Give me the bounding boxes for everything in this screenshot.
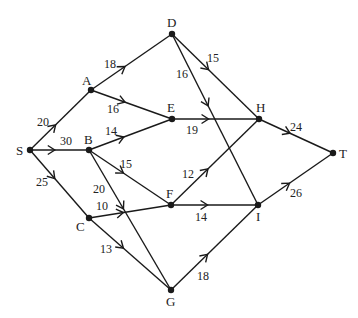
node-label-g: G — [166, 294, 175, 309]
edge-weight-label: 30 — [60, 134, 72, 148]
node-label-t: T — [339, 146, 347, 161]
node-label-c: C — [76, 219, 85, 234]
node-label-d: D — [167, 15, 176, 30]
edge-weight-label: 14 — [195, 210, 207, 224]
edge-weight-label: 26 — [290, 186, 302, 200]
edge-weight-label: 13 — [100, 242, 112, 256]
edge-weight-label: 24 — [290, 120, 302, 134]
edge-weight-label: 20 — [93, 182, 105, 196]
node-labels-layer: SABCDEFGHIT — [16, 15, 347, 309]
edge-weight-label: 16 — [176, 67, 188, 81]
edge-a-e — [91, 90, 172, 119]
node-label-e: E — [167, 100, 175, 115]
edge-weight-label: 16 — [107, 102, 119, 116]
node-label-b: B — [84, 132, 93, 147]
edge-weight-label: 15 — [207, 51, 219, 65]
node-g — [168, 287, 174, 293]
node-b — [86, 147, 92, 153]
node-e — [169, 116, 175, 122]
node-label-a: A — [82, 73, 92, 88]
node-f — [168, 202, 174, 208]
edge-b-e — [89, 119, 172, 150]
network-svg: 203025181614152010131516191214182426 SAB… — [0, 0, 358, 318]
node-i — [255, 202, 261, 208]
node-t — [330, 150, 336, 156]
edge-weight-label: 10 — [96, 199, 108, 213]
edge-g-i — [171, 205, 258, 290]
node-label-h: H — [256, 100, 265, 115]
edge-b-g — [89, 150, 171, 290]
node-c — [86, 215, 92, 221]
edge-weight-label: 20 — [37, 115, 49, 129]
edge-weight-label: 25 — [36, 175, 48, 189]
edge-labels-layer: 203025181614152010131516191214182426 — [36, 51, 302, 283]
edge-weight-label: 19 — [186, 123, 198, 137]
node-s — [27, 147, 33, 153]
edge-weight-label: 18 — [104, 57, 116, 71]
edge-weight-label: 14 — [105, 124, 117, 138]
node-label-i: I — [256, 209, 260, 224]
edge-weight-label: 12 — [182, 167, 194, 181]
node-h — [256, 116, 262, 122]
edge-f-h — [171, 119, 259, 205]
node-d — [169, 31, 175, 37]
edge-weight-label: 18 — [197, 269, 209, 283]
node-label-s: S — [16, 143, 23, 158]
edge-weight-label: 15 — [120, 157, 132, 171]
network-diagram: 203025181614152010131516191214182426 SAB… — [0, 0, 358, 318]
node-label-f: F — [166, 186, 173, 201]
